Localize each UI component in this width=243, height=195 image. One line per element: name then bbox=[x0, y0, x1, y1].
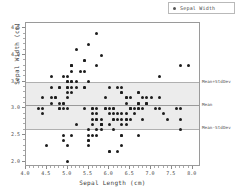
data-point bbox=[66, 91, 69, 94]
data-point bbox=[129, 107, 132, 110]
data-point bbox=[66, 160, 69, 163]
data-point bbox=[125, 96, 128, 99]
x-tick-minor bbox=[183, 166, 184, 168]
data-point bbox=[116, 118, 119, 121]
y-tick-minor bbox=[23, 70, 25, 71]
y-tick bbox=[22, 54, 25, 55]
data-point bbox=[175, 107, 178, 110]
x-tick-minor bbox=[58, 166, 59, 168]
data-point bbox=[91, 118, 94, 121]
x-tick-minor bbox=[100, 166, 101, 168]
data-point bbox=[120, 144, 123, 147]
y-tick-minor bbox=[23, 97, 25, 98]
data-point bbox=[129, 118, 132, 121]
data-point bbox=[95, 134, 98, 137]
data-point bbox=[45, 144, 48, 147]
data-point bbox=[100, 128, 103, 131]
data-point bbox=[158, 107, 161, 110]
data-point bbox=[87, 128, 90, 131]
data-point bbox=[75, 86, 78, 89]
data-point bbox=[141, 107, 144, 110]
data-point bbox=[145, 102, 148, 105]
data-point bbox=[137, 91, 140, 94]
x-tick-minor bbox=[42, 166, 43, 168]
x-tick-minor bbox=[63, 166, 64, 168]
y-tick-minor bbox=[23, 150, 25, 151]
x-tick-minor bbox=[71, 166, 72, 168]
x-tick-label: 7.0 bbox=[145, 170, 154, 176]
x-tick-minor bbox=[179, 166, 180, 168]
x-tick-label: 6.5 bbox=[125, 170, 134, 176]
data-point bbox=[79, 70, 82, 73]
x-tick-minor bbox=[146, 166, 147, 168]
x-tick-minor bbox=[50, 166, 51, 168]
data-point bbox=[100, 123, 103, 126]
y-tick-minor bbox=[23, 86, 25, 87]
y-tick-minor bbox=[23, 155, 25, 156]
x-tick bbox=[150, 166, 151, 169]
x-tick-minor bbox=[163, 166, 164, 168]
data-point bbox=[116, 150, 119, 153]
y-axis-title: Sepal Width (cm) bbox=[13, 6, 20, 102]
data-point bbox=[83, 86, 86, 89]
x-tick bbox=[129, 166, 130, 169]
x-tick-minor bbox=[38, 166, 39, 168]
data-point bbox=[129, 96, 132, 99]
data-point bbox=[75, 48, 78, 51]
x-tick-minor bbox=[92, 166, 93, 168]
x-tick-label: 5.5 bbox=[83, 170, 92, 176]
y-tick-minor bbox=[23, 59, 25, 60]
data-point bbox=[50, 96, 53, 99]
data-point bbox=[50, 86, 53, 89]
data-point bbox=[133, 107, 136, 110]
annotation-mean-stddev: Mean+StdDev bbox=[202, 79, 231, 84]
data-point bbox=[95, 128, 98, 131]
data-point bbox=[108, 86, 111, 89]
data-point bbox=[83, 59, 86, 62]
y-tick-minor bbox=[23, 43, 25, 44]
x-tick-minor bbox=[142, 166, 143, 168]
y-tick bbox=[22, 107, 25, 108]
data-point bbox=[70, 134, 73, 137]
data-point bbox=[62, 107, 65, 110]
y-tick-label: 2.5 bbox=[11, 131, 20, 137]
data-point bbox=[83, 107, 86, 110]
x-tick-label: 4.0 bbox=[20, 170, 29, 176]
data-point bbox=[112, 118, 115, 121]
data-point bbox=[91, 107, 94, 110]
x-tick-minor bbox=[188, 166, 189, 168]
data-point bbox=[133, 112, 136, 115]
x-tick-minor bbox=[138, 166, 139, 168]
y-tick-minor bbox=[23, 33, 25, 34]
data-point bbox=[125, 123, 128, 126]
x-tick-minor bbox=[83, 166, 84, 168]
data-point bbox=[62, 134, 65, 137]
x-tick bbox=[25, 166, 26, 169]
data-point bbox=[62, 75, 65, 78]
data-point bbox=[112, 107, 115, 110]
x-tick-minor bbox=[104, 166, 105, 168]
x-tick-minor bbox=[167, 166, 168, 168]
data-point bbox=[179, 118, 182, 121]
data-point bbox=[120, 118, 123, 121]
y-tick-minor bbox=[23, 102, 25, 103]
data-point bbox=[141, 118, 144, 121]
data-point bbox=[137, 134, 140, 137]
data-point bbox=[75, 80, 78, 83]
data-point bbox=[108, 123, 111, 126]
data-point bbox=[154, 107, 157, 110]
y-tick-minor bbox=[23, 91, 25, 92]
data-point bbox=[108, 150, 111, 153]
y-tick-minor bbox=[23, 123, 25, 124]
data-point bbox=[120, 86, 123, 89]
data-point bbox=[95, 118, 98, 121]
data-point bbox=[91, 134, 94, 137]
data-point bbox=[100, 118, 103, 121]
legend[interactable]: Sepal Width bbox=[168, 2, 235, 14]
data-point bbox=[158, 96, 161, 99]
data-point bbox=[104, 96, 107, 99]
data-point bbox=[100, 54, 103, 57]
x-tick-minor bbox=[54, 166, 55, 168]
data-point bbox=[166, 118, 169, 121]
data-point bbox=[66, 107, 69, 110]
